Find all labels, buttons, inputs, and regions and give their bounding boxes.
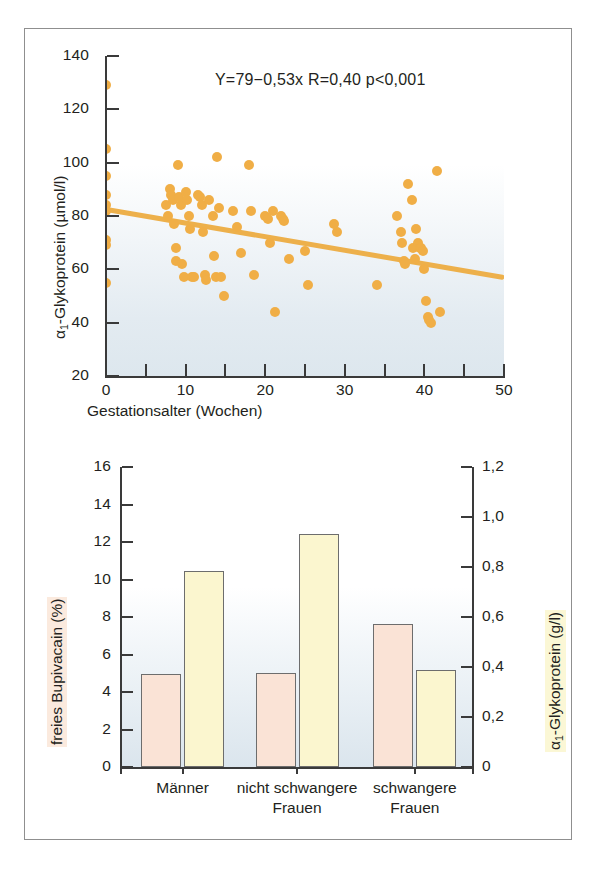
bar-left-y-tick	[122, 541, 133, 543]
scatter-data-point	[332, 227, 342, 237]
bar-left-y-tick-label: 8	[73, 607, 111, 625]
scatter-data-point	[244, 160, 254, 170]
bar-right-y-tick	[461, 716, 472, 718]
bar-left-y-axis-title: freies Bupivacain (%)	[47, 597, 67, 747]
scatter-x-tick	[503, 364, 505, 376]
alpha-symbol: α	[51, 330, 68, 339]
scatter-data-point	[372, 280, 382, 290]
scatter-x-axis-line	[105, 376, 505, 378]
scatter-x-minor-tick	[384, 364, 386, 376]
bar-right-y-tick-label: 1,2	[482, 457, 528, 475]
scatter-x-tick	[105, 364, 107, 376]
bar-left-y-tick	[122, 729, 133, 731]
scatter-data-point	[236, 248, 246, 258]
scatter-y-tick	[107, 322, 119, 324]
bar-left-y-tick-label: 6	[73, 645, 111, 663]
scatter-y-axis-title-text: -Glykoprotein (µmol/l)	[51, 176, 68, 324]
scatter-data-point	[403, 179, 413, 189]
scatter-data-point	[214, 203, 224, 213]
bar-panel: freies Bupivacain (%) α1-Glykoprotein (g…	[25, 447, 573, 841]
scatter-data-point	[265, 238, 275, 248]
scatter-x-tick	[423, 364, 425, 376]
scatter-y-tick-label: 20	[25, 366, 89, 384]
bar-left-y-tick-label: 14	[73, 495, 111, 513]
scatter-y-tick-label: 100	[25, 153, 89, 171]
scatter-y-tick	[107, 215, 119, 217]
bar-left-y-tick	[122, 766, 133, 768]
alpha-symbol: α	[546, 741, 563, 750]
scatter-x-tick	[264, 364, 266, 376]
scatter-y-tick	[107, 162, 119, 164]
bar-left-y-tick	[122, 504, 133, 506]
bar-right-y-axis-title: α1-Glykoprotein (g/l)	[545, 610, 566, 752]
scatter-data-point	[418, 246, 428, 256]
scatter-x-tick-label: 50	[484, 381, 524, 399]
bar-x-tick	[296, 767, 298, 774]
scatter-y-tick-label: 60	[25, 259, 89, 277]
scatter-data-point	[212, 152, 222, 162]
figure-frame: α1-Glykoprotein (µmol/l) Y=79−0,53x R=0,…	[24, 28, 572, 840]
bar-x-edge-tick	[120, 767, 122, 774]
scatter-data-point	[184, 211, 194, 221]
bar-right-y-axis-line	[472, 467, 474, 768]
bar-left-y-tick-label: 16	[73, 457, 111, 475]
scatter-data-point	[173, 160, 183, 170]
scatter-y-tick-label: 140	[25, 46, 89, 64]
bar-left-y-tick-label: 2	[73, 720, 111, 738]
scatter-data-point	[219, 291, 229, 301]
scatter-data-point	[392, 211, 402, 221]
bar-right-y-tick-label: 0	[482, 757, 528, 775]
bar-right-y-tick-label: 1,0	[482, 507, 528, 525]
scatter-y-tick	[107, 268, 119, 270]
scatter-data-point	[396, 227, 406, 237]
bar-alpha1-glykoprotein	[416, 670, 456, 768]
scatter-data-point	[303, 280, 313, 290]
scatter-data-point	[198, 227, 208, 237]
scatter-x-minor-tick	[224, 364, 226, 376]
scatter-data-point	[201, 275, 211, 285]
scatter-data-point	[246, 206, 256, 216]
bar-category-label: Frauen	[325, 799, 505, 817]
bar-freies-bupivacain	[141, 674, 181, 767]
bar-category-label: schwangere	[325, 779, 505, 797]
scatter-data-point	[407, 195, 417, 205]
scatter-panel: α1-Glykoprotein (µmol/l) Y=79−0,53x R=0,…	[25, 29, 573, 424]
bar-right-y-tick	[461, 466, 472, 468]
scatter-x-axis-title: Gestationsalter (Wochen)	[87, 402, 262, 420]
bar-left-y-tick	[122, 616, 133, 618]
scatter-x-tick	[185, 364, 187, 376]
scatter-x-tick-label: 40	[404, 381, 444, 399]
scatter-data-point	[171, 243, 181, 253]
bar-right-y-tick	[461, 666, 472, 668]
bar-freies-bupivacain	[256, 673, 296, 767]
bar-alpha1-glykoprotein	[299, 534, 339, 767]
scatter-y-tick	[107, 108, 119, 110]
scatter-x-tick-label: 0	[86, 381, 126, 399]
scatter-data-point	[189, 272, 199, 282]
scatter-plot-area	[106, 56, 504, 376]
scatter-x-tick-label: 30	[325, 381, 365, 399]
scatter-x-tick	[344, 364, 346, 376]
scatter-data-point	[185, 224, 195, 234]
bar-right-y-tick	[461, 566, 472, 568]
scatter-data-point	[209, 251, 219, 261]
scatter-data-point	[284, 254, 294, 264]
bar-right-y-tick-label: 0,6	[482, 607, 528, 625]
scatter-data-point	[228, 206, 238, 216]
bar-left-y-tick-label: 10	[73, 570, 111, 588]
bar-x-tick	[414, 767, 416, 774]
scatter-y-tick-label: 120	[25, 99, 89, 117]
bar-plot-area	[121, 467, 473, 767]
scatter-regression-annotation: Y=79−0,53x R=0,40 p<0,001	[215, 71, 426, 89]
scatter-data-point	[435, 307, 445, 317]
scatter-y-tick	[107, 55, 119, 57]
scatter-data-point	[432, 166, 442, 176]
bar-left-y-tick	[122, 579, 133, 581]
scatter-x-minor-tick	[145, 364, 147, 376]
bar-left-y-tick	[122, 654, 133, 656]
bar-left-y-tick-label: 12	[73, 532, 111, 550]
bar-right-y-tick-label: 0,8	[482, 557, 528, 575]
scatter-data-point	[400, 259, 410, 269]
bar-right-y-tick	[461, 766, 472, 768]
bar-freies-bupivacain	[373, 624, 413, 767]
